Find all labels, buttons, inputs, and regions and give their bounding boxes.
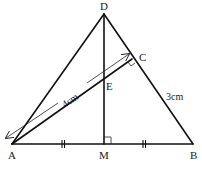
measurement-AC-label: 4cm (60, 91, 81, 110)
point-label-D: D (100, 0, 108, 12)
point-label-A: A (8, 149, 16, 161)
measurement-CB-label: 3cm (166, 91, 183, 102)
right-angle-mark-C (128, 62, 135, 66)
point-label-C: C (139, 51, 146, 63)
side-DB (104, 14, 193, 144)
triangle-diagram: 4cm 3cm D C E A M B (0, 0, 202, 169)
point-label-M: M (99, 149, 109, 161)
dimension-arrow-AC-upper (87, 54, 129, 83)
point-label-E: E (106, 80, 113, 92)
dimension-arrow-AC (6, 103, 58, 138)
point-label-B: B (190, 149, 197, 161)
right-angle-mark-M (104, 137, 111, 144)
